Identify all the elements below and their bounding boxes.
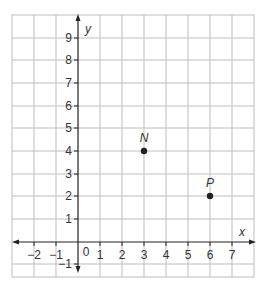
- x-tick-label-3: 3: [141, 248, 148, 262]
- x-axis-right-arrow-icon: [249, 240, 256, 245]
- y-tick-label-4: 4: [65, 144, 72, 158]
- y-tick-label-5: 5: [65, 121, 72, 135]
- x-tick-label-neg2: −2: [27, 248, 41, 262]
- point-p-label: P: [206, 176, 214, 190]
- vertical-gridlines: [34, 15, 232, 277]
- y-tick-label-7: 7: [65, 76, 72, 90]
- y-tick-label-3: 3: [65, 167, 72, 181]
- y-tick-label-2: 2: [65, 189, 72, 203]
- grid-border: [12, 15, 254, 277]
- point-n-marker: [141, 148, 147, 154]
- x-axis-left-arrow-icon: [12, 240, 19, 245]
- x-axis-label: x: [238, 225, 246, 239]
- x-tick-label-4: 4: [163, 248, 170, 262]
- x-tick-label-5: 5: [185, 248, 192, 262]
- horizontal-gridlines: [12, 38, 254, 264]
- origin-label: 0: [83, 245, 90, 259]
- x-tick-label-1: 1: [97, 248, 104, 262]
- x-tick-label-neg1: −1: [49, 248, 63, 262]
- y-tick-label-8: 8: [65, 53, 72, 67]
- point-p-marker: [207, 193, 213, 199]
- y-axis-down-arrow-icon: [76, 266, 81, 273]
- x-tick-label-2: 2: [119, 248, 126, 262]
- x-tick-label-7: 7: [229, 248, 236, 262]
- point-n-label: N: [140, 131, 149, 145]
- coordinate-grid: 9 8 7 6 5 4 3 2 1 −1 −2 −1 0 1 2 3 4 5 6…: [0, 0, 263, 299]
- y-tick-label-6: 6: [65, 99, 72, 113]
- point-p: P: [206, 176, 214, 199]
- x-axis: [12, 240, 256, 245]
- x-tick-marks: [34, 242, 232, 246]
- y-axis-label: y: [84, 22, 92, 36]
- y-tick-label-9: 9: [65, 31, 72, 45]
- x-tick-label-6: 6: [207, 248, 214, 262]
- y-axis: [76, 14, 81, 273]
- y-tick-label-1: 1: [65, 212, 72, 226]
